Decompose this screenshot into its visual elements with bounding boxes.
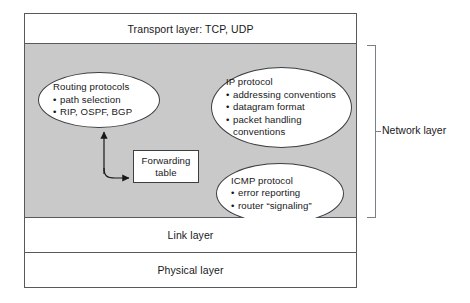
forwarding-table-text: Forwarding table — [142, 155, 191, 178]
icmp-protocol-list: •error reporting •router “signaling” — [231, 187, 329, 212]
list-item-label: router “signaling” — [238, 200, 312, 211]
list-item-label: packet handling — [233, 114, 302, 125]
forwarding-table-line1: Forwarding — [142, 155, 191, 167]
link-layer-band: Link layer — [25, 218, 356, 253]
network-layer-bracket-tick — [376, 131, 381, 132]
list-item: •error reporting — [231, 187, 329, 199]
bullet-icon: • — [226, 101, 233, 113]
network-layer-band: Routing protocols •path selection •RIP, … — [25, 44, 356, 218]
physical-layer-label: Physical layer — [157, 264, 223, 276]
arrow-shaft-right — [104, 168, 129, 178]
bullet-icon: • — [231, 200, 238, 212]
icmp-protocol-ellipse: ICMP protocol •error reporting •router “… — [216, 163, 344, 224]
list-item-label: addressing conventions — [233, 89, 336, 100]
routing-protocols-text: Routing protocols •path selection •RIP, … — [39, 81, 159, 118]
ip-protocol-title: IP protocol — [226, 76, 337, 88]
forwarding-table-line2: table — [142, 167, 191, 179]
diagram-canvas: Transport layer: TCP, UDP Routing protoc… — [0, 0, 470, 303]
routing-protocols-list: •path selection •RIP, OSPF, BGP — [53, 94, 145, 119]
list-item: •router “signaling” — [231, 200, 329, 212]
list-item: •packet handling — [226, 114, 337, 126]
list-item: •path selection — [53, 94, 145, 106]
routing-protocols-ellipse: Routing protocols •path selection •RIP, … — [38, 72, 160, 128]
link-layer-label: Link layer — [168, 229, 214, 241]
list-item-continuation: conventions — [226, 126, 337, 138]
icmp-protocol-title: ICMP protocol — [231, 175, 329, 187]
transport-layer-band: Transport layer: TCP, UDP — [25, 14, 356, 44]
network-layer-bracket-label: Network layer — [382, 124, 446, 136]
list-item: •datagram format — [226, 101, 337, 113]
bullet-icon: • — [231, 187, 238, 199]
list-item-label: path selection — [60, 94, 121, 105]
list-item-continuation-label: conventions — [233, 126, 285, 137]
bullet-icon: • — [53, 94, 60, 106]
list-item-label: datagram format — [233, 101, 305, 112]
transport-layer-label: Transport layer: TCP, UDP — [127, 23, 253, 35]
protocol-stack-frame: Transport layer: TCP, UDP Routing protoc… — [24, 13, 357, 288]
list-item: •RIP, OSPF, BGP — [53, 106, 145, 118]
ip-protocol-list: •addressing conventions •datagram format… — [226, 89, 337, 139]
ip-protocol-ellipse: IP protocol •addressing conventions •dat… — [211, 67, 352, 148]
routing-to-forwarding-arrow — [97, 122, 143, 180]
bullet-icon: • — [53, 106, 60, 118]
routing-protocols-title: Routing protocols — [53, 81, 145, 93]
bullet-icon: • — [226, 114, 233, 126]
physical-layer-band: Physical layer — [25, 253, 356, 287]
icmp-protocol-text: ICMP protocol •error reporting •router “… — [217, 175, 343, 212]
network-layer-bracket — [367, 45, 376, 218]
bullet-icon: • — [226, 89, 233, 101]
list-item: •addressing conventions — [226, 89, 337, 101]
ip-protocol-text: IP protocol •addressing conventions •dat… — [212, 76, 351, 138]
list-item-label: RIP, OSPF, BGP — [60, 106, 132, 117]
list-item-label: error reporting — [238, 187, 300, 198]
